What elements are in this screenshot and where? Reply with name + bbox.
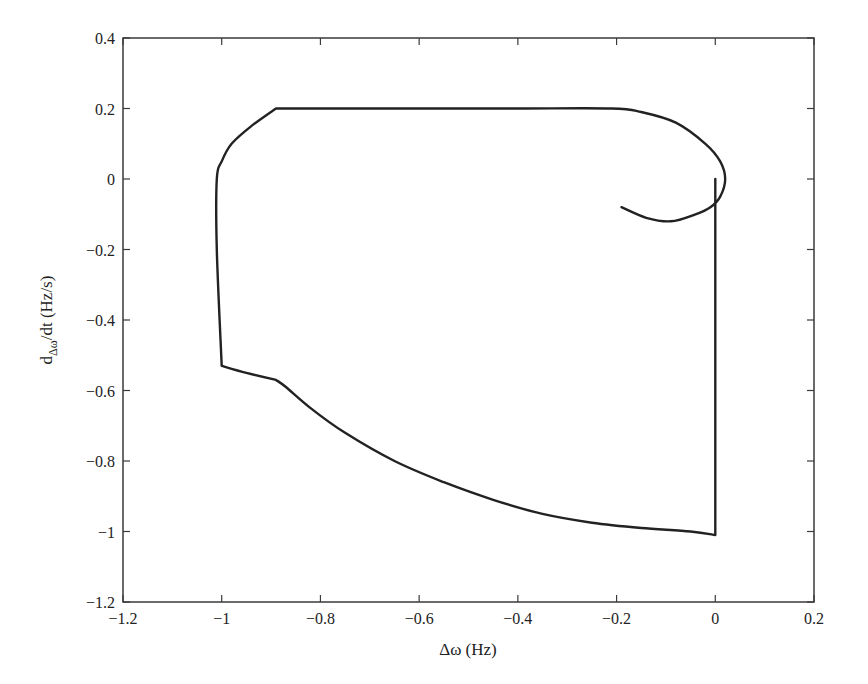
y-tick-label: −0.4 (86, 312, 115, 329)
y-tick-label: 0.2 (95, 101, 115, 118)
y-tick-label: −0.6 (86, 383, 115, 400)
y-tick-label: −0.2 (86, 242, 115, 259)
x-tick-label: −0.8 (306, 610, 335, 627)
y-tick-label: −0.8 (86, 453, 115, 470)
y-tick-label: −1 (98, 524, 115, 541)
x-tick-label: 0.2 (804, 610, 824, 627)
y-tick-label: −1.2 (86, 594, 115, 611)
y-axis-label-subscript: Δω (46, 340, 60, 356)
plot-area (123, 38, 814, 602)
x-tick-label: 0 (711, 610, 719, 627)
y-tick-label: 0 (107, 171, 115, 188)
x-tick-label: −0.2 (602, 610, 631, 627)
x-tick-label: −1 (213, 610, 230, 627)
x-axis-label: Δω (Hz) (439, 640, 497, 659)
y-tick-label: 0.4 (95, 30, 115, 47)
y-axis-label: dΔω/dt (Hz/s) (37, 276, 60, 365)
x-tick-label: −1.2 (108, 610, 137, 627)
phase-plot: −1.2−1−0.8−0.6−0.4−0.200.2 0.40.20−0.2−0… (0, 0, 868, 684)
y-axis-label-rest: /dt (Hz/s) (37, 276, 56, 341)
x-tick-label: −0.6 (405, 610, 434, 627)
x-tick-label: −0.4 (503, 610, 532, 627)
